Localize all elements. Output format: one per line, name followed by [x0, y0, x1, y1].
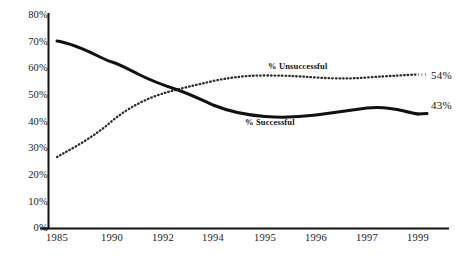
connector-successful: [418, 114, 427, 115]
chart-container: 80% 70% 60% 50% 40% 30% 20% 10% 0% 1985 …: [0, 0, 461, 256]
series-line-successful: [57, 41, 418, 117]
plot-area: [0, 0, 461, 256]
series-line-unsuccessful: [57, 75, 418, 158]
